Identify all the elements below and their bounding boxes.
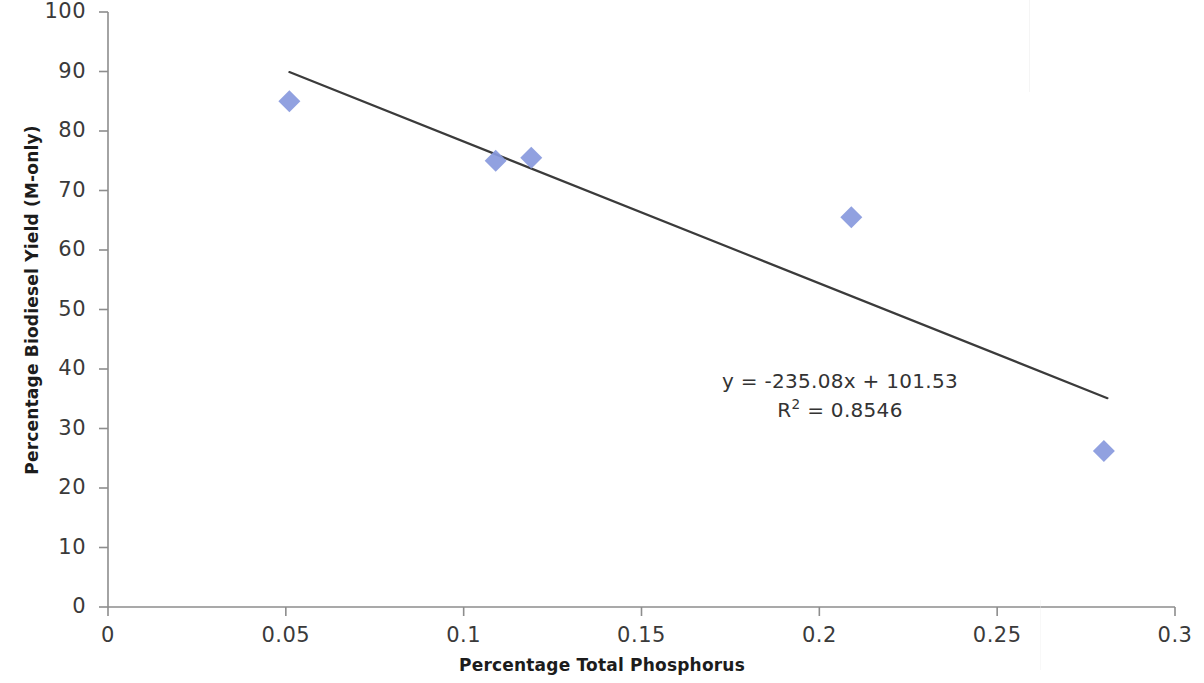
y-axis-tick-label: 30 [0,418,86,439]
trendline-r-squared-text: R2 = 0.8546 [640,395,1040,424]
scatter-chart: 0102030405060708090100 00.050.10.150.20.… [0,0,1204,683]
r-squared-symbol: R [777,398,791,422]
data-point-marker[interactable] [840,206,862,228]
x-axis-tick-label: 0.05 [226,625,346,646]
y-axis-tick-label: 100 [0,1,86,22]
x-axis-tick-label: 0.15 [582,625,702,646]
r-squared-value: = 0.8546 [801,398,903,422]
x-axis-tick-label: 0.1 [404,625,524,646]
y-axis-tick-label: 50 [0,299,86,320]
y-axis-tick-label: 80 [0,120,86,141]
data-point-marker[interactable] [278,90,300,112]
scan-artifact-vertical-line-lower [1040,600,1041,670]
x-axis-tick-label: 0.2 [759,625,879,646]
y-axis-tick-label: 70 [0,180,86,201]
y-axis-tick-label: 0 [0,596,86,617]
data-point-marker[interactable] [485,150,507,172]
y-axis-tick-label: 60 [0,239,86,260]
r-squared-exponent: 2 [792,396,801,412]
trendline [289,72,1107,398]
scan-artifact-vertical-line [1029,0,1030,92]
x-axis-title: Percentage Total Phosphorus [0,655,1204,675]
y-axis-tick-label: 40 [0,358,86,379]
y-axis-tick-label: 20 [0,477,86,498]
trendline-annotation: y = -235.08x + 101.53 R2 = 0.8546 [640,368,1040,424]
x-axis-tick-label: 0 [48,625,168,646]
x-axis-tick-label: 0.3 [1115,625,1204,646]
trendline-equation-text: y = -235.08x + 101.53 [640,368,1040,395]
data-point-marker[interactable] [1093,440,1115,462]
y-axis-tick-label: 90 [0,61,86,82]
plot-area [0,0,1204,683]
y-axis-title: Percentage Biodiesel Yield (M-only) [22,100,42,500]
y-axis-tick-label: 10 [0,537,86,558]
